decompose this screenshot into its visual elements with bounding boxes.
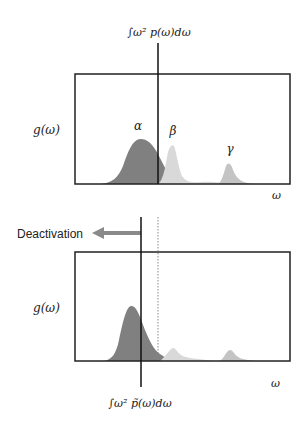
deactivation-indicator: Deactivation	[17, 227, 141, 241]
diagram-canvas: ∫ω² p(ω)dω g(ω) α β γ ω Deactivation	[0, 0, 302, 434]
bottom-panel: g(ω) ω ∫ω² p̃(ω)dω	[33, 217, 290, 410]
alpha-label: α	[134, 119, 142, 133]
gamma-label: γ	[226, 142, 234, 156]
bottom-plot-frame	[75, 252, 290, 361]
top-x-axis-label: ω	[272, 189, 281, 202]
gamma-peak	[218, 163, 262, 184]
top-plot-frame	[75, 74, 290, 184]
gamma-peak-shifted	[220, 350, 262, 361]
alpha-peak-shifted	[103, 306, 176, 361]
beta-peak-shifted	[160, 348, 214, 361]
beta-peak	[158, 145, 226, 184]
left-arrow-icon	[92, 227, 104, 239]
bottom-integral-label: ∫ω² p̃(ω)dω	[108, 397, 171, 410]
top-y-axis-label: g(ω)	[33, 123, 60, 137]
top-panel: ∫ω² p(ω)dω g(ω) α β γ ω	[33, 26, 290, 202]
bottom-y-axis-label: g(ω)	[33, 301, 60, 315]
deactivation-label: Deactivation	[17, 227, 83, 241]
beta-label: β	[169, 124, 177, 138]
top-integral-label: ∫ω² p(ω)dω	[127, 26, 190, 39]
bottom-x-axis-label: ω	[271, 377, 280, 390]
